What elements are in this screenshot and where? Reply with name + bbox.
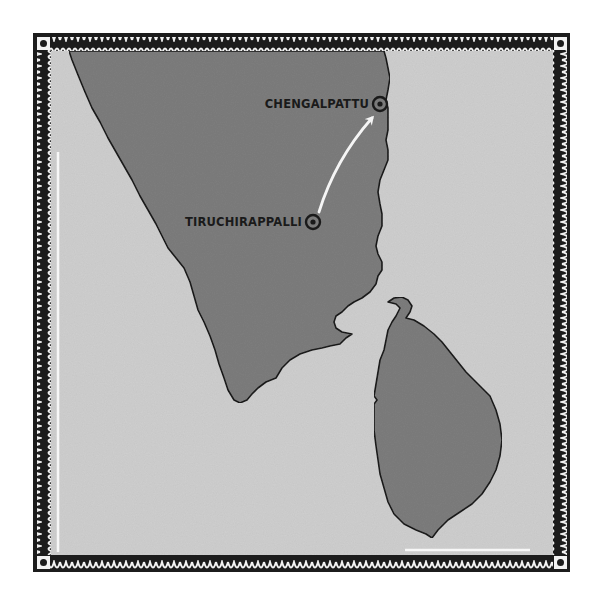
corner-ornament-bottom-right bbox=[554, 556, 567, 569]
place-label-chengalpattu: CHENGALPATTU bbox=[265, 97, 369, 111]
map: CHENGALPATTU TIRUCHIRAPPALLI bbox=[0, 0, 604, 613]
corner-ornament-bottom-left bbox=[37, 556, 50, 569]
place-label-tiruchirappalli: TIRUCHIRAPPALLI bbox=[185, 215, 302, 229]
location-marker-dot bbox=[310, 219, 315, 224]
corner-ornament-top-right bbox=[554, 37, 567, 50]
corner-ornament-top-left bbox=[37, 37, 50, 50]
place-tiruchirappalli[interactable]: TIRUCHIRAPPALLI bbox=[185, 215, 320, 229]
place-chengalpattu[interactable]: CHENGALPATTU bbox=[265, 97, 387, 111]
location-marker-dot bbox=[377, 101, 382, 106]
